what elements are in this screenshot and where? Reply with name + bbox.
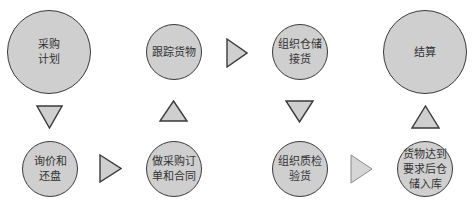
node-track-goods: 跟踪货物 bbox=[146, 24, 202, 80]
node-label: 组织仓储 接货 bbox=[278, 37, 322, 67]
triangle-up-icon bbox=[411, 105, 440, 129]
node-purchase-order-and-contract: 做采购订 单和合同 bbox=[146, 141, 202, 197]
node-label: 货物达到 要求后仓 储入库 bbox=[403, 147, 447, 192]
triangle-down-icon bbox=[285, 100, 314, 123]
node-label: 结算 bbox=[414, 45, 436, 60]
triangle-down-icon bbox=[36, 105, 63, 129]
node-warehouse-receiving: 组织仓储 接货 bbox=[272, 24, 328, 80]
node-procurement-plan: 采购 计划 bbox=[7, 10, 91, 94]
node-label: 跟踪货物 bbox=[152, 45, 196, 60]
triangle-right-icon bbox=[99, 154, 122, 183]
node-label: 采购 计划 bbox=[38, 37, 60, 67]
triangle-right-icon bbox=[350, 154, 373, 184]
node-label: 询价和 还盘 bbox=[34, 154, 67, 184]
node-label: 组织质检 验货 bbox=[278, 154, 322, 184]
triangle-up-icon bbox=[159, 100, 188, 122]
node-warehouse-storage: 货物达到 要求后仓 储入库 bbox=[397, 141, 453, 197]
procurement-flow-diagram: 采购 计划 询价和 还盘 做采购订 单和合同 跟踪货物 组织仓储 接货 组织质检… bbox=[0, 0, 472, 208]
node-inquiry-and-counteroffer: 询价和 还盘 bbox=[22, 141, 78, 197]
node-settlement: 结算 bbox=[383, 10, 467, 94]
triangle-right-icon bbox=[226, 38, 248, 68]
node-quality-inspection: 组织质检 验货 bbox=[272, 141, 328, 197]
node-label: 做采购订 单和合同 bbox=[152, 154, 196, 184]
